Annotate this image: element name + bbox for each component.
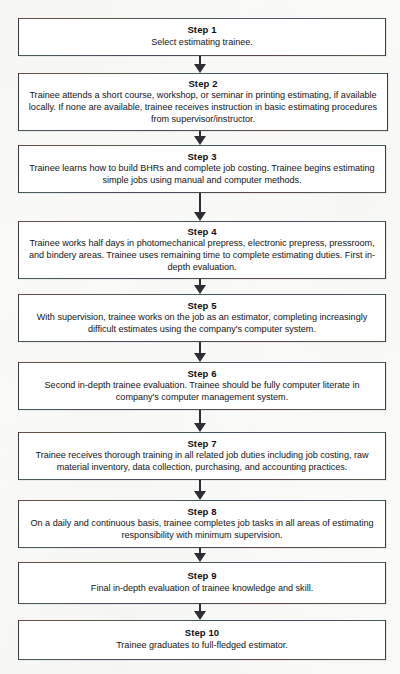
flowchart-node-step-5: Step 5With supervision, trainee works on… xyxy=(18,294,386,342)
scan-fringe-bottom xyxy=(19,192,385,193)
step-10-title: Step 10 xyxy=(185,627,220,639)
scan-fringe-top xyxy=(19,18,385,19)
flowchart-node-step-3: Step 3Trainee learns how to build BHRs a… xyxy=(18,145,386,193)
scan-fringe-top xyxy=(19,432,385,433)
scan-fringe-top xyxy=(19,362,385,363)
scan-fringe-bottom xyxy=(19,603,385,604)
flow-arrow-3-to-4 xyxy=(193,193,207,221)
step-5-body: With supervision, trainee works on the j… xyxy=(26,312,378,335)
scan-fringe-bottom xyxy=(19,55,385,56)
flowchart-node-step-7: Step 7Trainee receives thorough training… xyxy=(18,432,386,480)
arrow-stem xyxy=(199,56,201,64)
arrow-stem xyxy=(199,342,201,353)
flowchart-node-step-10: Step 10Trainee graduates to full-fledged… xyxy=(18,620,386,660)
flowchart-node-step-6: Step 6Second in-depth trainee evaluation… xyxy=(18,362,386,410)
arrow-head-down-icon xyxy=(194,64,206,73)
arrow-head-down-icon xyxy=(194,285,206,294)
flowchart-node-step-4: Step 4Trainee works half days in photome… xyxy=(18,221,386,279)
step-2-body: Trainee attends a short course, workshop… xyxy=(26,90,380,125)
scan-fringe-top xyxy=(19,562,385,563)
step-6-title: Step 6 xyxy=(187,368,216,380)
step-4-title: Step 4 xyxy=(187,226,216,238)
flow-arrow-9-to-10 xyxy=(193,604,207,620)
scan-fringe-bottom xyxy=(19,278,385,279)
arrow-head-down-icon xyxy=(194,136,206,145)
scan-fringe-top xyxy=(19,73,387,74)
step-1-title: Step 1 xyxy=(187,24,216,36)
flow-arrow-7-to-8 xyxy=(193,480,207,500)
flowchart-node-step-1: Step 1Select estimating trainee. xyxy=(18,18,386,56)
arrow-stem xyxy=(199,410,201,423)
step-3-body: Trainee learns how to build BHRs and com… xyxy=(26,163,378,186)
arrow-head-down-icon xyxy=(194,353,206,362)
arrow-head-down-icon xyxy=(194,423,206,432)
flow-arrow-5-to-6 xyxy=(193,342,207,362)
step-3-title: Step 3 xyxy=(187,151,216,163)
step-8-title: Step 8 xyxy=(187,506,216,518)
step-6-body: Second in-depth trainee evaluation. Trai… xyxy=(26,380,378,403)
flowchart-node-step-9: Step 9Final in-depth evaluation of train… xyxy=(18,562,386,604)
step-4-body: Trainee works half days in photomechanic… xyxy=(26,238,378,273)
step-9-title: Step 9 xyxy=(187,570,216,582)
flow-arrow-4-to-5 xyxy=(193,279,207,294)
step-9-body: Final in-depth evaluation of trainee kno… xyxy=(91,583,313,595)
flowchart-node-step-8: Step 8On a daily and continuous basis, t… xyxy=(18,500,386,548)
flow-arrow-1-to-2 xyxy=(193,56,207,73)
arrow-head-down-icon xyxy=(194,553,206,562)
step-5-title: Step 5 xyxy=(187,300,216,312)
flow-arrow-6-to-7 xyxy=(193,410,207,432)
scan-fringe-bottom xyxy=(19,547,385,548)
arrow-stem xyxy=(199,131,201,136)
arrow-stem xyxy=(199,279,201,285)
arrow-stem xyxy=(199,548,201,553)
arrow-stem xyxy=(199,193,201,212)
arrow-head-down-icon xyxy=(194,611,206,620)
step-7-body: Trainee receives thorough training in al… xyxy=(26,450,378,473)
scan-fringe-top xyxy=(19,500,385,501)
flow-arrow-2-to-3 xyxy=(193,131,207,145)
arrow-head-down-icon xyxy=(194,212,206,221)
step-8-body: On a daily and continuous basis, trainee… xyxy=(26,518,378,541)
scan-fringe-bottom xyxy=(19,341,385,342)
scan-fringe-bottom xyxy=(19,659,385,660)
arrow-stem xyxy=(199,604,201,611)
flowchart-canvas: Step 1Select estimating trainee.Step 2Tr… xyxy=(0,0,400,674)
scan-fringe-top xyxy=(19,221,385,222)
flow-arrow-8-to-9 xyxy=(193,548,207,562)
scan-fringe-top xyxy=(19,294,385,295)
flowchart-node-step-2: Step 2Trainee attends a short course, wo… xyxy=(18,73,388,131)
scan-fringe-top xyxy=(19,145,385,146)
scan-fringe-bottom xyxy=(19,479,385,480)
step-2-title: Step 2 xyxy=(188,78,217,90)
step-7-title: Step 7 xyxy=(187,438,216,450)
arrow-head-down-icon xyxy=(194,491,206,500)
arrow-stem xyxy=(199,480,201,491)
step-10-body: Trainee graduates to full-fledged estima… xyxy=(116,640,288,652)
scan-fringe-bottom xyxy=(19,409,385,410)
scan-fringe-bottom xyxy=(19,130,387,131)
scan-fringe-top xyxy=(19,620,385,621)
step-1-body: Select estimating trainee. xyxy=(151,37,253,49)
